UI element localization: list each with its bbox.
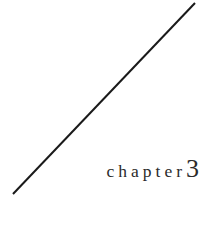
diagonal-rule-layer (0, 0, 201, 238)
chapter-number: 3 (186, 156, 199, 182)
chapter-divider-page: chapter 3 (0, 0, 201, 238)
chapter-label: chapter (107, 163, 187, 181)
chapter-heading: chapter 3 (0, 156, 199, 190)
